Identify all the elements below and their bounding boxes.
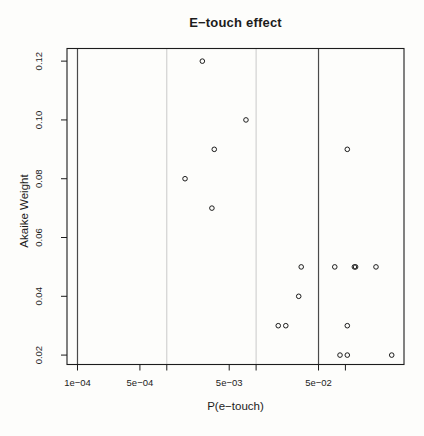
data-point: [299, 265, 304, 270]
data-point: [283, 323, 288, 328]
scatter-plot-figure: E−touch effect 1e−045e−045e−035e−020.020…: [0, 0, 424, 436]
x-tick-label: 5e−03: [216, 377, 243, 388]
data-point: [244, 118, 249, 123]
y-tick-label: 0.06: [33, 228, 44, 247]
x-tick-label: 1e−04: [64, 377, 91, 388]
data-point: [345, 147, 350, 152]
data-point: [345, 353, 350, 358]
plot-area: 1e−045e−045e−035e−020.020.040.060.080.10…: [0, 0, 424, 436]
data-point: [389, 353, 394, 358]
x-axis-label: P(e−touch): [67, 400, 404, 412]
data-point: [212, 147, 217, 152]
data-point: [276, 323, 281, 328]
data-point: [332, 265, 337, 270]
y-axis-label: Akaike Weight: [18, 174, 30, 247]
plot-box: [67, 49, 404, 365]
data-point: [338, 353, 343, 358]
data-point: [345, 323, 350, 328]
x-tick-label: 5e−02: [305, 377, 332, 388]
data-point: [210, 206, 215, 211]
y-tick-label: 0.02: [33, 346, 44, 365]
y-tick-label: 0.08: [33, 169, 44, 188]
y-tick-label: 0.10: [33, 111, 44, 130]
y-tick-label: 0.04: [33, 287, 44, 306]
y-tick-label: 0.12: [33, 52, 44, 71]
x-tick-label: 5e−04: [127, 377, 154, 388]
data-point: [183, 176, 188, 181]
data-point: [200, 59, 205, 64]
data-point: [374, 265, 379, 270]
data-point: [296, 294, 301, 299]
